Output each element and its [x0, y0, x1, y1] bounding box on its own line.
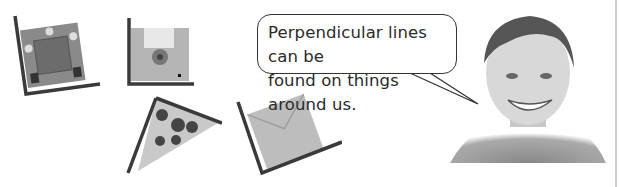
smiling-boy-photo	[440, 8, 610, 163]
speech-text-line2: found on things around us.	[268, 69, 456, 117]
speech-bubble: Perpendicular lines can be found on thin…	[257, 14, 457, 74]
picture-frame-illustration	[10, 12, 105, 97]
page-margin-line	[615, 0, 617, 187]
pizza-slice-illustration	[122, 95, 222, 177]
floppy-disk-illustration	[126, 16, 198, 88]
speech-text-line1: Perpendicular lines can be	[268, 21, 456, 69]
